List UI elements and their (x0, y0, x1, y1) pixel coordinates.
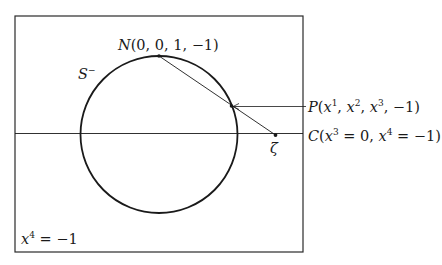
label-n-coords: (0, 0, 1, −1) (131, 37, 219, 53)
point-p (230, 104, 234, 108)
label-plane: x4 = −1 (21, 230, 78, 247)
point-zeta (274, 133, 278, 137)
projection-line (159, 56, 276, 135)
point-n (157, 54, 161, 58)
sphere-s-minus (81, 56, 238, 213)
label-zeta: ζ (270, 140, 279, 156)
label-n: N(0, 0, 1, −1) (117, 37, 219, 53)
label-c: C(x3 = 0, x4 = −1) (308, 127, 441, 144)
stereographic-projection-diagram: N(0, 0, 1, −1) S− P(x1, x2, x3, −1) C(x3… (0, 0, 442, 265)
label-s-minus: S− (78, 65, 95, 82)
label-p: P(x1, x2, x3, −1) (307, 98, 420, 115)
